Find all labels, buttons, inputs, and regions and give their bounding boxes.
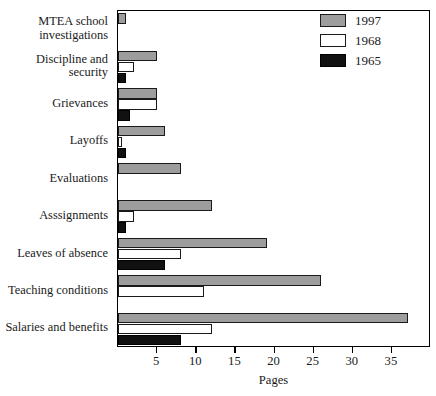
bar-1997 <box>118 163 181 174</box>
bar-group <box>118 236 429 273</box>
x-tick-label: 15 <box>228 354 241 369</box>
bar-group <box>118 161 429 198</box>
bar-1968 <box>118 211 134 222</box>
bar-group <box>118 198 429 235</box>
bar-1968 <box>118 324 212 335</box>
legend-item: 1965 <box>320 54 381 67</box>
bar-1997 <box>118 313 408 324</box>
category-label: MTEA school investigations <box>0 15 108 42</box>
category-label: Asssignments <box>0 209 108 223</box>
legend-swatch-icon <box>320 34 346 47</box>
x-tick <box>274 347 275 353</box>
bar-1997 <box>118 51 157 62</box>
category-label: Layoffs <box>0 134 108 148</box>
legend-item: 1997 <box>320 14 381 27</box>
legend: 199719681965 <box>320 14 381 67</box>
category-label: Discipline and security <box>0 53 108 80</box>
bar-group <box>118 11 429 48</box>
legend-label: 1965 <box>355 54 381 67</box>
legend-label: 1968 <box>355 34 381 47</box>
x-tick-label: 5 <box>153 354 159 369</box>
bar-1968 <box>118 62 134 73</box>
category-label: Grievances <box>0 97 108 111</box>
x-tick <box>195 347 196 353</box>
x-tick <box>313 347 314 353</box>
bar-group <box>118 48 429 85</box>
x-tick <box>234 347 235 353</box>
legend-item: 1968 <box>320 34 381 47</box>
x-tick-label: 30 <box>345 354 358 369</box>
bar-1965 <box>118 148 126 159</box>
category-label: Leaves of absence <box>0 247 108 261</box>
legend-swatch-icon <box>320 14 346 27</box>
x-tick-label: 25 <box>306 354 319 369</box>
bar-group <box>118 273 429 310</box>
x-tick <box>352 347 353 353</box>
bar-1968 <box>118 249 181 260</box>
bar-1965 <box>118 73 126 84</box>
legend-label: 1997 <box>355 14 381 27</box>
bar-1965 <box>118 110 130 121</box>
category-labels: MTEA school investigationsDiscipline and… <box>0 0 112 396</box>
x-tick <box>391 347 392 353</box>
legend-swatch-icon <box>320 54 346 67</box>
bar-group <box>118 123 429 160</box>
bar-1965 <box>118 260 165 271</box>
bar-1968 <box>118 99 157 110</box>
bar-1997 <box>118 238 267 249</box>
bar-1997 <box>118 88 157 99</box>
bar-1997 <box>118 13 126 24</box>
category-label: Teaching conditions <box>0 284 108 298</box>
bar-1968 <box>118 286 204 297</box>
bar-1997 <box>118 126 165 137</box>
bar-1997 <box>118 200 212 211</box>
bar-group <box>118 86 429 123</box>
x-tick-label: 10 <box>189 354 202 369</box>
plot-area <box>117 10 430 347</box>
bar-1997 <box>118 275 321 286</box>
x-tick-label: 35 <box>385 354 398 369</box>
x-tick-label: 20 <box>267 354 280 369</box>
bar-group <box>118 311 429 348</box>
x-axis-tick-labels: 5101520253035 <box>117 354 430 372</box>
bar-1965 <box>118 222 126 233</box>
bar-chart: MTEA school investigationsDiscipline and… <box>0 0 436 396</box>
category-label: Salaries and benefits <box>0 321 108 335</box>
x-axis-title: Pages <box>117 373 430 388</box>
x-tick <box>156 347 157 353</box>
bar-1968 <box>118 137 122 148</box>
bar-1965 <box>118 335 181 346</box>
category-label: Evaluations <box>0 172 108 186</box>
